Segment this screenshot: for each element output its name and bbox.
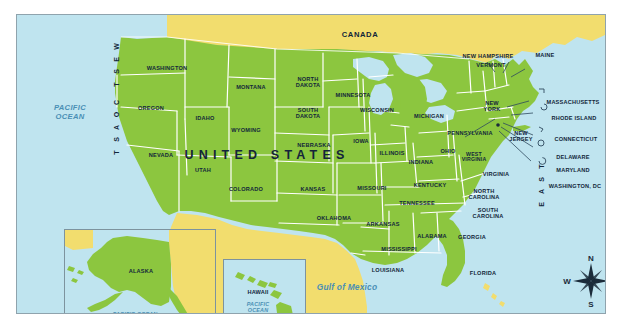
compass-rose: N S W E <box>558 247 606 313</box>
us-map-figure: CANADA MEXICO UNITED STATES PACIFIC OCEA… <box>0 0 622 328</box>
alaska-inset-geography <box>65 230 216 314</box>
map-frame: CANADA MEXICO UNITED STATES PACIFIC OCEA… <box>16 14 606 314</box>
hawaii-inset-geography <box>224 260 306 314</box>
compass-north-label: N <box>588 254 594 263</box>
hawaii-inset-box: HAWAII PACIFIC OCEAN <box>223 259 306 314</box>
compass-south-label: S <box>588 300 593 309</box>
washington-dc-marker <box>496 123 500 127</box>
alaska-inset-box: ALASKA PACIFIC OCEAN <box>64 229 216 314</box>
compass-west-label: W <box>563 277 571 286</box>
